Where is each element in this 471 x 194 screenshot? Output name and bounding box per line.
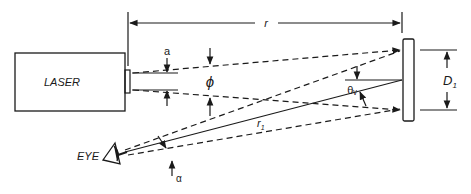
laser-eye-geometry-diagram: LASER r a ϕ D1: [0, 0, 471, 194]
divergence-phi-label: ϕ: [206, 73, 214, 90]
laser-label: LASER: [44, 76, 80, 88]
laser-aperture: [125, 70, 130, 93]
eye-label: EYE: [77, 150, 100, 162]
target-screen: [403, 39, 414, 121]
aperture-a-label: a: [164, 45, 171, 57]
viewing-angle-theta-label: θᵥ: [347, 84, 357, 96]
viewing-angle-theta-dimension: [357, 66, 366, 106]
acceptance-angle-alpha-label: α: [176, 173, 182, 184]
aperture-a-dimension: [132, 58, 178, 106]
view-distance-r1-label: r1: [257, 117, 265, 131]
laser-box: LASER: [15, 53, 125, 111]
spot-diameter-d1-label: D1: [443, 73, 457, 90]
distance-r-label: r: [264, 17, 269, 29]
eye-icon: [103, 143, 127, 164]
